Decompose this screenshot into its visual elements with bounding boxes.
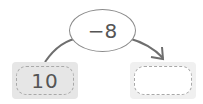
- operation-bubble: −8: [69, 9, 136, 52]
- answer-input[interactable]: [134, 66, 192, 95]
- answer-box[interactable]: [130, 62, 196, 99]
- start-value-box: 10: [12, 62, 78, 99]
- start-value: 10: [16, 66, 74, 95]
